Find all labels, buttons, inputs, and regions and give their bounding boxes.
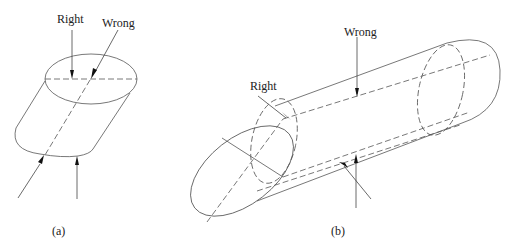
diagram-canvas: Right Wrong (a) Right: [0, 0, 512, 251]
wrong-arrowhead-b-icon: [355, 88, 359, 97]
panel-b-label-wrong: Wrong: [344, 25, 377, 39]
end-cap-curve: [447, 40, 500, 123]
back-ellipse: [410, 40, 472, 139]
panel-a-label-wrong: Wrong: [102, 16, 135, 30]
lower-oblique-arrowhead-icon: [38, 155, 44, 164]
panel-b: Right Wrong (b): [174, 25, 500, 238]
right-arrow-b: [258, 96, 286, 118]
lower-oblique-arrow-b: [344, 166, 371, 199]
wrong-arrowhead-top-icon: [91, 68, 97, 79]
front-ellipse-major-axis: [207, 119, 283, 222]
cylinder-top-outline: [275, 43, 447, 106]
lower-vertical-arrowhead-icon: [75, 156, 79, 165]
cylinder-dashed-lower-2: [257, 125, 460, 191]
lower-vertical-arrowhead-b-icon: [354, 154, 358, 163]
front-ellipse-minor-axis: [222, 138, 283, 177]
panel-a-label-right: Right: [57, 12, 84, 26]
axis-dashed: [45, 80, 90, 155]
panel-a-caption: (a): [52, 224, 65, 238]
lower-oblique-arrow: [18, 164, 40, 198]
bottom-curve: [15, 128, 93, 157]
cylinder-dashed-lower: [283, 112, 470, 177]
right-arrowhead-top-icon: [70, 70, 74, 79]
front-ellipse: [174, 108, 309, 234]
cylinder-side-left: [16, 81, 45, 128]
panel-a: Right Wrong (a): [15, 12, 137, 238]
cylinder-dashed-upper: [283, 55, 490, 119]
panel-b-label-right: Right: [250, 79, 277, 93]
panel-b-caption: (b): [331, 224, 345, 238]
wrong-arrow-top: [95, 30, 118, 72]
